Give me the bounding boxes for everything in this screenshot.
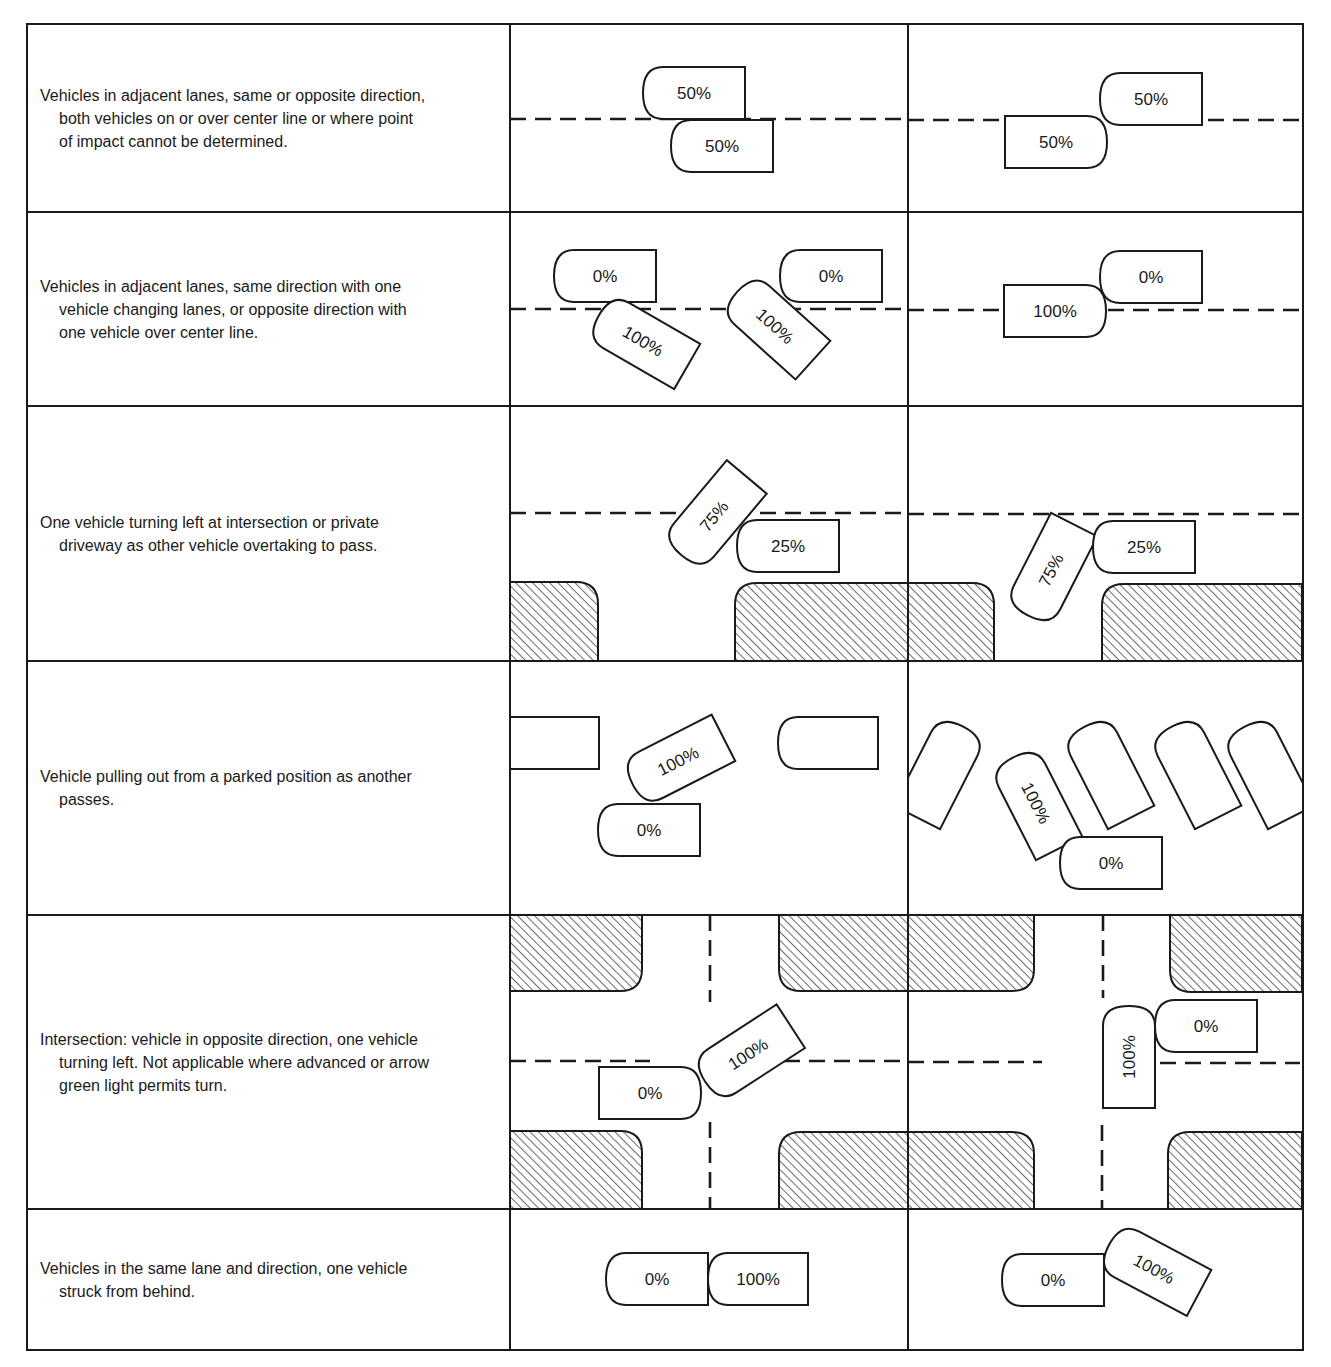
rule-description-continuation-line: driveway as other vehicle overtaking to …	[40, 534, 379, 557]
fault-percent-label: 0%	[637, 821, 662, 840]
vehicle-with-fault-percent: 0%	[606, 1253, 708, 1305]
building-block	[1170, 915, 1302, 992]
rule-description-text: Vehicles in adjacent lanes, same directi…	[28, 275, 407, 344]
vehicle-with-fault-percent: 0%	[599, 1067, 701, 1119]
rule-description: Intersection: vehicle in opposite direct…	[28, 915, 506, 1209]
rule-description: One vehicle turning left at intersection…	[28, 406, 506, 661]
parked-vehicle	[509, 717, 599, 769]
vehicle-outline	[1062, 715, 1155, 829]
rule-description-first-line: One vehicle turning left at intersection…	[40, 511, 379, 534]
building-block	[779, 915, 908, 991]
rule-description-continuation-line: one vehicle over center line.	[40, 321, 407, 344]
rule-description-continuation-line: struck from behind.	[40, 1280, 407, 1303]
fault-percent-label: 50%	[705, 137, 739, 156]
rule-description-first-line: Vehicles in the same lane and direction,…	[40, 1257, 407, 1280]
building-block	[510, 915, 642, 991]
building-block	[908, 583, 994, 661]
fault-percent-label: 0%	[819, 267, 844, 286]
rule-description-first-line: Vehicle pulling out from a parked positi…	[40, 765, 412, 788]
vehicle-with-fault-percent: 100%	[621, 715, 735, 808]
vehicle-with-fault-percent: 25%	[1093, 521, 1195, 573]
vehicle-with-fault-percent: 0%	[1100, 251, 1202, 303]
fault-percent-label: 25%	[771, 537, 805, 556]
fault-percent-label: 100%	[1033, 302, 1076, 321]
vehicle-with-fault-percent: 100%	[1103, 1006, 1155, 1108]
vehicle-outline	[1149, 715, 1242, 829]
vehicle-with-fault-percent: 75%	[1005, 513, 1098, 627]
rule-description: Vehicle pulling out from a parked positi…	[28, 661, 506, 915]
building-block	[908, 915, 1034, 991]
vehicle-with-fault-percent: 0%	[1155, 1000, 1257, 1052]
vehicle-with-fault-percent: 0%	[780, 250, 882, 302]
parked-vehicle	[1222, 715, 1315, 829]
rule-description-first-line: Vehicles in adjacent lanes, same or oppo…	[40, 84, 425, 107]
building-block	[1102, 584, 1302, 661]
vehicle-with-fault-percent: 50%	[643, 67, 745, 119]
parked-vehicle	[778, 717, 878, 769]
vehicle-with-fault-percent: 100%	[1097, 1222, 1211, 1316]
fault-percent-label: 50%	[1134, 90, 1168, 109]
fault-percent-label: 0%	[1139, 268, 1164, 287]
building-block	[510, 582, 598, 661]
fault-percent-label: 0%	[1194, 1017, 1219, 1036]
fault-percent-label: 0%	[638, 1084, 663, 1103]
fault-percent-label: 100%	[736, 1270, 779, 1289]
rule-description-continuation-line: vehicle changing lanes, or opposite dire…	[40, 298, 407, 321]
vehicle-with-fault-percent: 0%	[1060, 837, 1162, 889]
vehicle-outline	[778, 717, 878, 769]
fault-percent-label: 100%	[1120, 1035, 1139, 1078]
fault-percent-label: 0%	[1099, 854, 1124, 873]
rule-description-continuation-line: turning left. Not applicable where advan…	[40, 1051, 429, 1074]
parked-vehicle	[1062, 715, 1155, 829]
vehicle-with-fault-percent: 0%	[554, 250, 656, 302]
parked-vehicle	[1149, 715, 1242, 829]
rule-description-text: Vehicles in the same lane and direction,…	[28, 1257, 407, 1303]
fault-percent-label: 25%	[1127, 538, 1161, 557]
rule-description-continuation-line: of impact cannot be determined.	[40, 130, 425, 153]
rule-description: Vehicles in adjacent lanes, same directi…	[28, 212, 506, 406]
building-block	[1168, 1132, 1302, 1209]
vehicle-with-fault-percent: 50%	[1005, 116, 1107, 168]
vehicle-with-fault-percent: 100%	[708, 1253, 808, 1305]
rule-description-text: Intersection: vehicle in opposite direct…	[28, 1028, 429, 1097]
building-block	[735, 583, 908, 661]
vehicle-with-fault-percent: 100%	[1004, 285, 1106, 337]
building-block	[779, 1132, 908, 1209]
vehicle-with-fault-percent: 25%	[737, 520, 839, 572]
rule-description-continuation-line: passes.	[40, 788, 412, 811]
vehicle-with-fault-percent: 100%	[691, 1004, 805, 1103]
rule-description-continuation-line: both vehicles on or over center line or …	[40, 107, 425, 130]
vehicle-with-fault-percent: 0%	[1002, 1254, 1104, 1306]
vehicle-with-fault-percent: 50%	[671, 120, 773, 172]
rule-description-text: One vehicle turning left at intersection…	[28, 511, 379, 557]
rule-description: Vehicles in the same lane and direction,…	[28, 1209, 506, 1350]
building-block	[908, 1132, 1034, 1209]
fault-percent-label: 50%	[1039, 133, 1073, 152]
rule-description-text: Vehicles in adjacent lanes, same or oppo…	[28, 84, 425, 153]
rule-description-continuation-line: green light permits turn.	[40, 1074, 429, 1097]
fault-percent-label: 0%	[1041, 1271, 1066, 1290]
vehicle-with-fault-percent: 50%	[1100, 73, 1202, 125]
vehicle-outline	[1222, 715, 1315, 829]
building-block	[510, 1131, 642, 1209]
rule-description: Vehicles in adjacent lanes, same or oppo…	[28, 24, 506, 212]
fault-percent-label: 0%	[645, 1270, 670, 1289]
vehicle-with-fault-percent: 0%	[598, 804, 700, 856]
rule-description-first-line: Intersection: vehicle in opposite direct…	[40, 1028, 429, 1051]
fault-percent-label: 0%	[593, 267, 618, 286]
rule-description-text: Vehicle pulling out from a parked positi…	[28, 765, 412, 811]
fault-percent-label: 50%	[677, 84, 711, 103]
rule-description-first-line: Vehicles in adjacent lanes, same directi…	[40, 275, 407, 298]
vehicle-with-fault-percent: 100%	[586, 293, 700, 389]
vehicle-outline	[509, 717, 599, 769]
vehicles-layer: 50%50%50%50%0%100%0%100%0%100%75%25%75%2…	[509, 67, 1314, 1316]
